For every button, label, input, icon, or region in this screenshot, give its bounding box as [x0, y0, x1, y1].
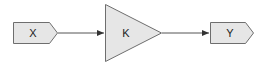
output-port-label: Y	[226, 27, 234, 39]
input-port-block-x[interactable]: X	[14, 23, 58, 44]
input-port-label: X	[29, 27, 37, 39]
gain-block-k[interactable]: K	[106, 5, 162, 62]
block-diagram: X K Y	[0, 0, 267, 66]
output-port-block-y[interactable]: Y	[211, 23, 254, 44]
gain-label: K	[122, 27, 130, 39]
